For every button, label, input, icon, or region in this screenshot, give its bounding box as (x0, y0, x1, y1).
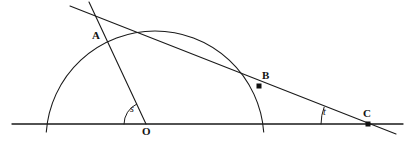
semicircle-arc (46, 31, 263, 132)
point-label-a: A (92, 30, 100, 41)
point-dot-b (257, 84, 262, 89)
point-dot-c (366, 122, 371, 127)
angle-label-t: t (323, 107, 326, 117)
radius-line-oa (89, 2, 146, 124)
point-label-c: C (363, 108, 371, 119)
point-label-b: B (262, 70, 269, 81)
angle-label-s: s (130, 104, 134, 114)
point-markers (257, 84, 371, 127)
point-label-o: O (142, 126, 151, 137)
secant-line-abc (70, 6, 396, 134)
geometry-figure: A B C O s t (0, 0, 415, 144)
geometry-canvas (0, 0, 415, 144)
